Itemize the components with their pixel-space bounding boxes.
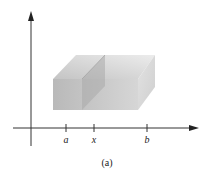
diagram-canvas: a x b (a) [0,0,212,182]
tick-label-a: a [64,134,69,145]
tick-label-b: b [145,134,150,145]
figure-caption: (a) [101,157,112,169]
tick-label-x: x [91,134,97,145]
y-axis-arrow-icon [28,11,34,21]
x-axis-arrow-icon [189,125,199,131]
